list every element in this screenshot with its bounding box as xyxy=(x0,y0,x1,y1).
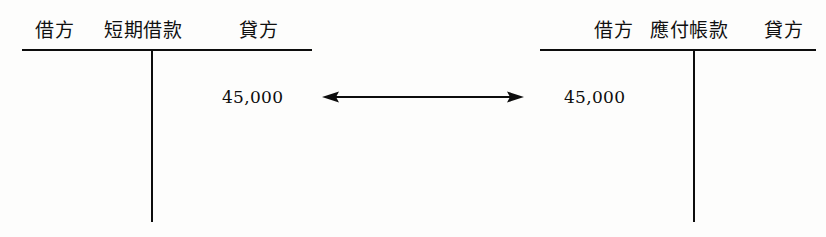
debit-amount-accounts-payable: 45,000 xyxy=(564,86,625,108)
credit-amount-short-term-loans: 45,000 xyxy=(222,86,283,108)
t-account-vertical-stem-left xyxy=(151,50,153,222)
debit-side-label-left: 借方 xyxy=(35,17,74,43)
debit-side-label-right: 借方 xyxy=(594,17,633,43)
credit-side-label-left: 貸方 xyxy=(239,17,278,43)
double-headed-arrow-icon xyxy=(322,84,524,110)
t-account-vertical-stem-right xyxy=(693,50,695,222)
t-account-horizontal-rule-left xyxy=(22,49,312,51)
t-account-short-term-loans: 借方 短期借款 貸方 45,000 xyxy=(0,0,330,237)
account-title-accounts-payable: 應付帳款 xyxy=(650,17,728,43)
t-account-accounts-payable: 借方 應付帳款 貸方 45,000 xyxy=(530,0,826,237)
account-title-short-term-loans: 短期借款 xyxy=(104,17,182,43)
diagram-canvas: 借方 短期借款 貸方 45,000 借方 應付帳款 貸方 45,000 xyxy=(0,0,826,237)
t-account-horizontal-rule-right xyxy=(540,49,816,51)
credit-side-label-right: 貸方 xyxy=(764,17,803,43)
